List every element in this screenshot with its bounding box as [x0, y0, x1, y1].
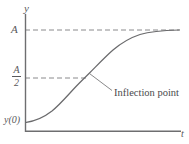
figure-canvas: [0, 0, 189, 144]
tick-label-upper-asymptote: A: [11, 24, 18, 35]
half-asymptote-denominator: 2: [14, 77, 19, 88]
logistic-growth-figure: y t A A 2 y(0) Inflection point: [0, 0, 189, 144]
tick-label-half-asymptote: A 2: [12, 65, 21, 88]
t-axis-label: t: [181, 129, 184, 139]
logistic-curve-path: [26, 30, 179, 122]
inflection-point-leader-line: [89, 73, 112, 90]
half-asymptote-numerator: A: [12, 65, 20, 76]
y-axis-label: y: [24, 3, 29, 14]
inflection-point-annotation: Inflection point: [114, 88, 179, 99]
tick-label-initial-value: y(0): [4, 115, 20, 125]
